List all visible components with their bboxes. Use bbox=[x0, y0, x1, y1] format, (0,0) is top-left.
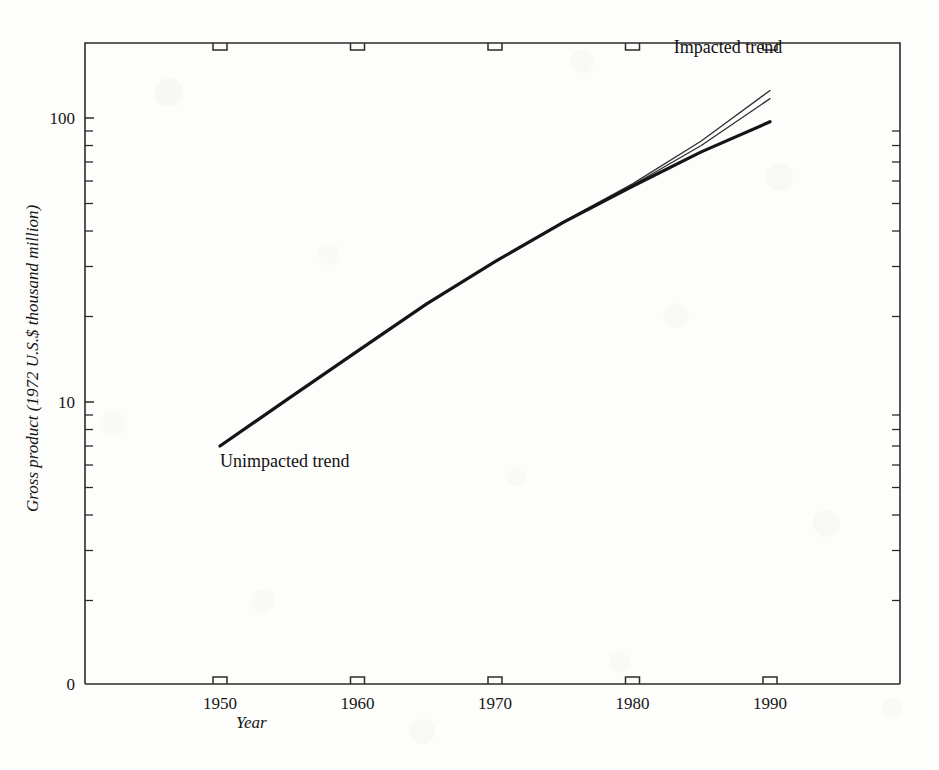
x-tick-mirror bbox=[488, 43, 502, 50]
line-chart-canvas: 101000 19501960197019801990 Year Gross p… bbox=[0, 0, 939, 770]
y-axis-major-ticks bbox=[85, 118, 94, 402]
x-tick-mirror bbox=[351, 43, 365, 50]
x-axis-tick-labels: 19501960197019801990 bbox=[203, 694, 787, 713]
x-axis-ticks bbox=[213, 677, 777, 684]
series-annotations: Impacted trendUnimpacted trend bbox=[220, 37, 782, 472]
chart-figure: 101000 19501960197019801990 Year Gross p… bbox=[0, 0, 939, 770]
x-tick bbox=[626, 677, 640, 684]
y-axis-minor-ticks bbox=[85, 131, 93, 601]
x-tick-label: 1950 bbox=[203, 694, 237, 713]
frame-border bbox=[85, 43, 900, 684]
y-axis-title: Gross product (1972 U.S.$ thousand milli… bbox=[23, 205, 42, 512]
x-tick-label: 1980 bbox=[616, 694, 650, 713]
series-line bbox=[220, 90, 770, 446]
y-axis-minor-ticks-mirror bbox=[892, 131, 900, 601]
y-axis-tick-labels: 101000 bbox=[50, 109, 76, 694]
x-tick bbox=[763, 677, 777, 684]
x-tick bbox=[213, 677, 227, 684]
x-tick bbox=[488, 677, 502, 684]
x-tick-mirror bbox=[213, 43, 227, 50]
x-tick-label: 1960 bbox=[341, 694, 375, 713]
series-line bbox=[220, 99, 770, 446]
x-tick-label: 1990 bbox=[753, 694, 787, 713]
plot-frame bbox=[85, 43, 900, 684]
y-tick-label: 100 bbox=[50, 109, 76, 128]
x-tick bbox=[351, 677, 365, 684]
y-origin-label: 0 bbox=[67, 675, 76, 694]
x-axis-title: Year bbox=[236, 713, 267, 732]
series-line bbox=[220, 122, 770, 446]
series-annotation-label: Unimpacted trend bbox=[220, 451, 349, 471]
x-tick-label: 1970 bbox=[478, 694, 512, 713]
y-tick-label: 10 bbox=[58, 393, 75, 412]
series-annotation-label: Impacted trend bbox=[674, 37, 782, 57]
x-tick-mirror bbox=[626, 43, 640, 50]
data-series-layer bbox=[220, 90, 770, 446]
